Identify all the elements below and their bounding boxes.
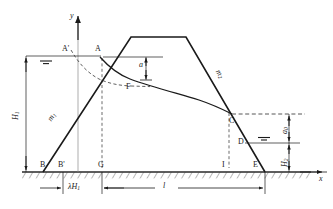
point-label-g: G [98,161,104,169]
foundation-ground [22,172,311,178]
point-label-e: E [253,161,258,169]
point-label-c: C [229,117,234,125]
point-label-a-prime: A' [62,45,69,53]
dimension-label-a: a [139,61,143,69]
diagram-svg [0,0,333,209]
dimension-label-H1: H1 [12,111,20,120]
y-axis-label: y [70,12,74,20]
point-label-a: A [95,45,101,53]
dimension-label-H2: H2 [281,158,289,167]
point-label-d: D [238,138,244,146]
dimension-label-lambda-H1: λH1 [68,183,80,191]
point-label-f: F [126,83,130,91]
point-label-b-prime: B' [58,161,65,169]
dimension-label-a0: a0 [281,127,289,134]
tailwater-table-symbol [258,138,270,141]
x-axis-label: x [319,175,323,183]
point-label-b: B [40,161,45,169]
dimension-label-l: l [163,182,165,190]
figure-canvas: y x A' A F C D B B' G I E m1 m2 H1 a a0 … [0,0,333,209]
phreatic-seepage-line [100,57,232,114]
point-label-i: I [222,161,225,169]
upstream-water-table-symbol [40,61,52,64]
